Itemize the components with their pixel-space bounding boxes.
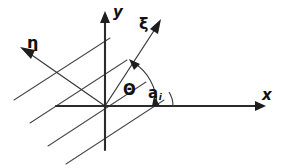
x-axis-label: x	[262, 88, 272, 103]
alpha-arc	[169, 92, 173, 106]
alpha-angle-label: ai	[148, 86, 162, 102]
eta-axis-line	[26, 51, 105, 106]
xi-arrow-icon	[150, 19, 161, 34]
alpha-angle-symbol: a	[148, 84, 158, 102]
parallel-line-family	[14, 38, 164, 164]
y-arrow-icon	[100, 11, 110, 23]
alpha-angle-subscript: i	[158, 92, 162, 102]
y-axis	[100, 11, 110, 150]
xi-axis-label: ξ	[139, 16, 148, 32]
eta-axis-label: η	[27, 35, 38, 51]
y-axis-label: y	[113, 5, 123, 20]
theta-angle-label: Θ	[123, 83, 136, 98]
eta-axis	[20, 47, 105, 106]
parallel-line-2	[30, 60, 127, 123]
parallel-line-4	[66, 100, 164, 164]
figure-canvas: x y ξ η Θ ai	[0, 0, 284, 168]
